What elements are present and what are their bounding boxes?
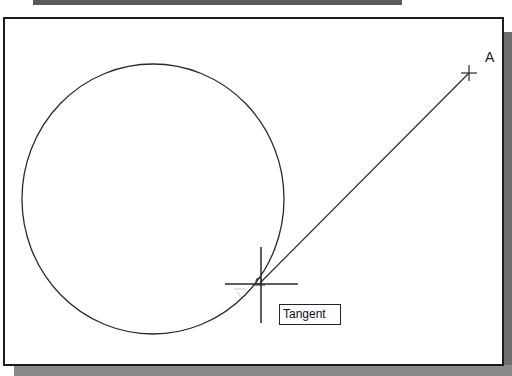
drawing-svg[interactable]: [0, 0, 512, 376]
ghost-snap-hint: [234, 289, 246, 300]
circle-entity[interactable]: [22, 64, 284, 334]
point-a-label: A: [485, 49, 494, 65]
snap-tooltip: Tangent: [279, 304, 341, 325]
line-entity[interactable]: [260, 73, 469, 283]
